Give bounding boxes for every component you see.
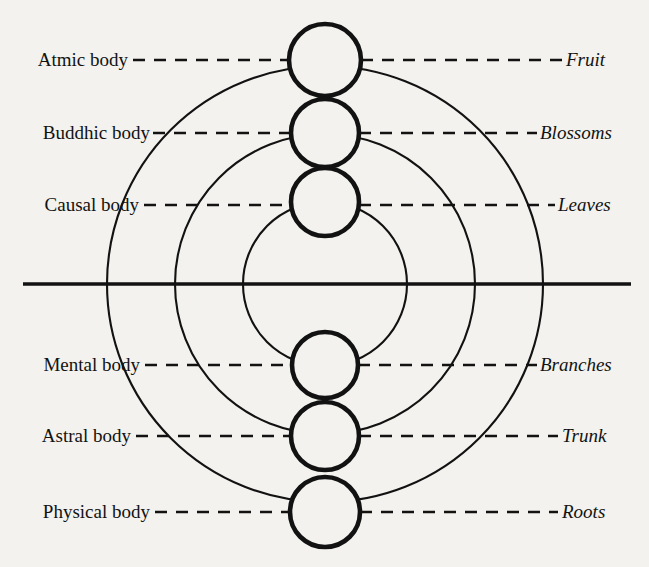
tree-part-label-5: Roots <box>562 502 605 521</box>
node-circle-1[interactable] <box>291 99 359 167</box>
tree-of-bodies-svg <box>0 0 649 567</box>
node-circle-5[interactable] <box>290 477 360 547</box>
body-label-5: Physical body <box>43 502 150 521</box>
body-label-3: Mental body <box>43 355 140 374</box>
node-circle-4[interactable] <box>291 402 359 470</box>
tree-part-label-0: Fruit <box>566 50 605 69</box>
tree-part-label-2: Leaves <box>558 195 611 214</box>
node-circle-0[interactable] <box>289 24 361 96</box>
tree-part-label-4: Trunk <box>562 426 606 445</box>
body-label-1: Buddhic body <box>43 123 150 142</box>
node-circle-2[interactable] <box>291 168 359 236</box>
tree-part-label-1: Blossoms <box>540 123 612 142</box>
diagram-canvas: Atmic bodyFruitBuddhic bodyBlossomsCausa… <box>0 0 649 567</box>
body-label-0: Atmic body <box>38 50 128 69</box>
body-label-4: Astral body <box>42 426 131 445</box>
body-label-2: Causal body <box>45 195 139 214</box>
tree-part-label-3: Branches <box>540 355 612 374</box>
node-circle-3[interactable] <box>292 332 358 398</box>
